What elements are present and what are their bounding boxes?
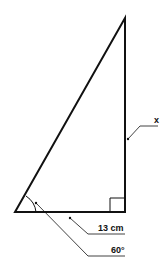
right-angle-marker	[110, 198, 125, 212]
right-triangle	[15, 18, 125, 212]
angle-arc	[26, 196, 36, 212]
unknown-side-label: x	[154, 116, 159, 125]
base-length-label: 13 cm	[98, 224, 124, 233]
x-leader-line	[128, 126, 158, 139]
angle-label: 60°	[111, 246, 125, 255]
triangle-diagram	[0, 0, 167, 271]
